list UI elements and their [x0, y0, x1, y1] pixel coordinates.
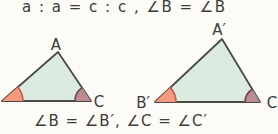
vertex-label-A-prime: A′: [212, 21, 226, 39]
vertex-label-A: A: [51, 36, 62, 54]
angle-equalities: ∠B = ∠B′, ∠C = ∠C′: [34, 112, 208, 130]
vertex-label-C: C: [94, 93, 104, 111]
triangle-A-prime-B-prime-C-prime: A′ B′ C: [136, 21, 277, 112]
textbook-figure: a : a = c : c , ∠B = ∠B A C A′ B′ C ∠B =…: [0, 0, 278, 134]
vertex-label-C-prime: C: [267, 94, 277, 112]
triangle-ABC: A C: [2, 36, 104, 111]
vertex-label-B-prime: B′: [136, 94, 150, 112]
